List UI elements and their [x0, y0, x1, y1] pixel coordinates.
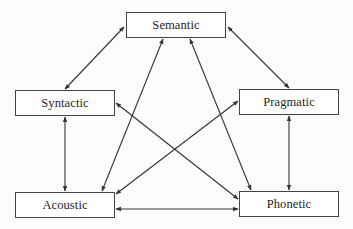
node-syntactic: Syntactic — [15, 90, 115, 116]
arrow-syntactic-phonetic — [116, 103, 238, 199]
node-label: Syntactic — [41, 96, 88, 111]
arrow-pragmatic-acoustic — [116, 101, 238, 194]
node-label: Acoustic — [42, 198, 87, 213]
arrow-semantic-syntactic — [65, 27, 124, 89]
node-semantic: Semantic — [126, 12, 226, 38]
node-label: Phonetic — [267, 197, 312, 212]
arrow-semantic-pragmatic — [228, 27, 289, 88]
node-pragmatic: Pragmatic — [239, 89, 339, 115]
language-levels-diagram: Semantic Syntactic Pragmatic Acoustic Ph… — [0, 0, 353, 229]
node-acoustic: Acoustic — [15, 192, 115, 218]
node-label: Pragmatic — [263, 95, 315, 110]
node-phonetic: Phonetic — [239, 191, 339, 217]
node-label: Semantic — [152, 18, 199, 33]
